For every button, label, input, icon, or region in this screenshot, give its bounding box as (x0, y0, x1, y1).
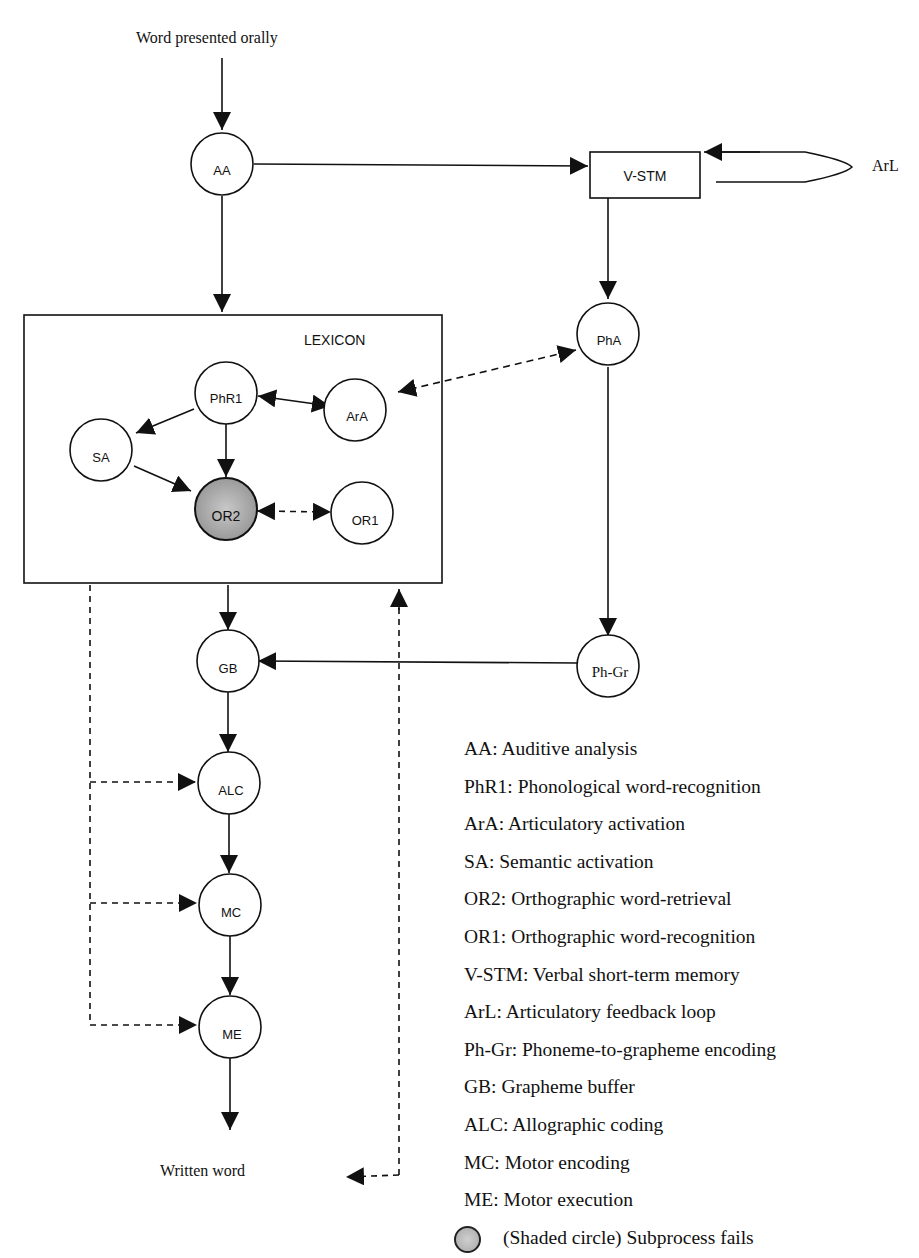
node-mc-label: MC (221, 905, 241, 920)
node-ara-label: ArA (346, 409, 368, 424)
legend-item-or2: OR2: Orthographic word-retrieval (464, 880, 776, 918)
node-or2-label: OR2 (212, 508, 241, 524)
edge-phr1-ara (258, 396, 330, 406)
legend-item-mc: MC: Motor encoding (464, 1144, 776, 1182)
lexicon-label: LEXICON (304, 332, 365, 348)
node-aa-label: AA (213, 163, 231, 178)
legend-item-gb: GB: Grapheme buffer (464, 1068, 776, 1106)
node-or1-label: OR1 (352, 513, 379, 528)
output-label: Written word (160, 1162, 245, 1179)
shaded-circle-icon (454, 1226, 481, 1253)
edge-aa-vstm (254, 164, 588, 166)
edge-feedback-output (346, 1175, 399, 1177)
node-vstm-label: V-STM (624, 168, 667, 184)
arl-label: ArL (872, 157, 899, 174)
legend-item-phr1: PhR1: Phonological word-recognition (464, 768, 776, 806)
legend-item-arl: ArL: Articulatory feedback loop (464, 993, 776, 1031)
legend-item-or1: OR1: Orthographic word-recognition (464, 918, 776, 956)
legend-shaded-note: (Shaded circle) Subprocess fails (503, 1227, 754, 1248)
input-label: Word presented orally (136, 29, 278, 47)
word-writing-model-diagram: LEXICON (0, 0, 919, 1258)
edge-or2-or1 (257, 511, 331, 512)
edge-arl-loop (716, 152, 852, 182)
node-alc-label: ALC (218, 783, 243, 798)
node-me-label: ME (222, 1027, 242, 1042)
legend-shaded-row: (Shaded circle) Subprocess fails (454, 1219, 776, 1257)
edge-phgr-gb (258, 661, 578, 663)
legend: AA: Auditive analysis PhR1: Phonological… (464, 730, 776, 1256)
node-sa-label: SA (92, 450, 110, 465)
legend-item-vstm: V-STM: Verbal short-term memory (464, 956, 776, 994)
legend-item-phgr: Ph-Gr: Phoneme-to-grapheme encoding (464, 1031, 776, 1069)
node-phgr-label: Ph-Gr (592, 664, 629, 680)
legend-item-aa: AA: Auditive analysis (464, 730, 776, 768)
legend-item-ara: ArA: Articulatory activation (464, 805, 776, 843)
edge-sa-or2 (134, 466, 191, 491)
legend-item-me: ME: Motor execution (464, 1181, 776, 1219)
node-pha-label: PhA (597, 333, 622, 348)
node-phr1-label: PhR1 (210, 391, 243, 406)
edge-phr1-sa (136, 409, 194, 433)
node-gb-label: GB (219, 661, 238, 676)
legend-item-sa: SA: Semantic activation (464, 843, 776, 881)
legend-item-alc: ALC: Allographic coding (464, 1106, 776, 1144)
edge-ara-pha (398, 350, 576, 392)
